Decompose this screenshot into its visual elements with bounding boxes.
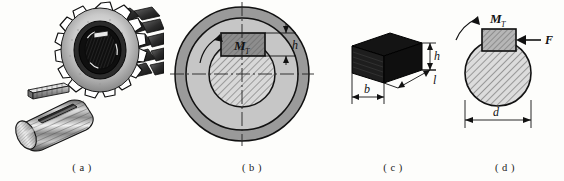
height-label-b: h xyxy=(292,38,298,52)
panel-d-shaft-free-body: M T F d ( d ) xyxy=(446,0,564,181)
height-label-c: h xyxy=(434,49,440,63)
panel-b-drawing: M T h xyxy=(164,0,340,181)
panel-a-pictorial-assembly: ( a ) xyxy=(0,0,164,181)
engineering-figure: ( a ) xyxy=(0,0,564,181)
panel-d-drawing: M T F d xyxy=(446,0,564,181)
width-arrow-left-c xyxy=(352,94,359,100)
gear xyxy=(55,2,164,98)
loose-key xyxy=(28,83,69,99)
width-arrow-right-c xyxy=(377,94,384,100)
height-arrow-top-c xyxy=(427,43,433,50)
force-label-d: F xyxy=(544,33,553,47)
panel-c-key-isometric: b h l ( c ) xyxy=(340,0,446,181)
width-label-c: b xyxy=(364,82,370,96)
panel-b-hub-cross-section: M T h ( b ) xyxy=(164,0,340,181)
panel-a-caption: ( a ) xyxy=(0,162,164,173)
shaft xyxy=(12,100,94,152)
diameter-label-d: d xyxy=(493,105,500,119)
force-arrow-head-d xyxy=(516,35,526,45)
diameter-arrow-left-d xyxy=(465,117,473,123)
diameter-arrow-right-d xyxy=(523,117,531,123)
height-arrow-bottom-c xyxy=(427,63,433,70)
torque-subscript-d: T xyxy=(501,20,506,29)
length-label-c: l xyxy=(433,73,437,87)
panel-c-drawing: b h l xyxy=(340,0,446,181)
torque-subscript-b: T xyxy=(245,47,250,56)
panel-a-drawing xyxy=(0,0,164,181)
panel-b-caption: ( b ) xyxy=(164,162,340,173)
panel-c-caption: ( c ) xyxy=(340,162,446,173)
panel-d-caption: ( d ) xyxy=(446,162,564,173)
key-rect-hatch-d xyxy=(482,29,516,51)
